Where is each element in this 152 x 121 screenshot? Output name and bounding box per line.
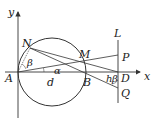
label-y: y (7, 6, 15, 19)
label-x: x (144, 70, 151, 83)
label-Q: Q (121, 87, 130, 100)
label-A: A (4, 72, 13, 85)
label-beta: β (26, 57, 33, 68)
label-D: D (120, 72, 130, 85)
label-alpha: α (54, 65, 61, 76)
angle-alpha-arc (44, 68, 45, 72)
label-M: M (78, 48, 91, 61)
label-beta-2: β (111, 73, 118, 84)
label-N: N (21, 37, 32, 50)
angle-beta-arc (22, 64, 26, 69)
label-L: L (113, 27, 121, 40)
label-d: d (47, 76, 54, 89)
geometry-diagram: y x N M L P A B D Q d α β h β (0, 0, 152, 121)
label-B: B (82, 76, 91, 89)
line-AP (18, 55, 118, 72)
label-P: P (121, 51, 130, 64)
